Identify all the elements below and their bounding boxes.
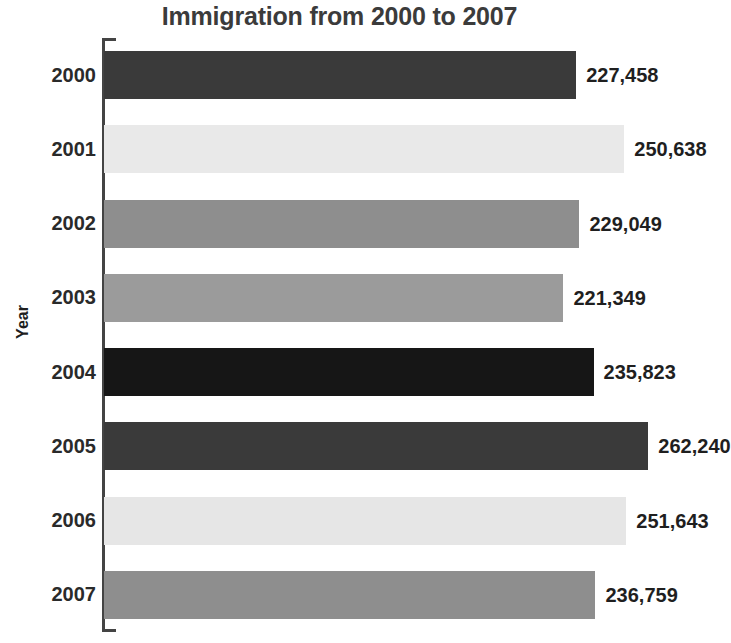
bar-row: 227,458 <box>104 51 679 99</box>
bar-value-label: 221,349 <box>573 286 645 309</box>
category-label: 2000 <box>10 64 96 87</box>
y-axis-tick-label-2005: 2005 <box>0 422 96 470</box>
bar-value-label: 235,823 <box>604 361 676 384</box>
y-axis-tick-label-2007: 2007 <box>0 571 96 619</box>
bar-2005[interactable] <box>104 422 648 470</box>
bar-value-label: 227,458 <box>586 64 658 87</box>
bar-row: 262,240 <box>104 422 679 470</box>
bar-value-label: 262,240 <box>658 435 730 458</box>
bar-2006[interactable] <box>104 497 626 545</box>
bar-row: 221,349 <box>104 274 679 322</box>
bar-row: 235,823 <box>104 348 679 396</box>
y-axis-tick-label-2000: 2000 <box>0 51 96 99</box>
category-label: 2004 <box>10 361 96 384</box>
bar-row: 229,049 <box>104 200 679 248</box>
y-axis-tick-label-2001: 2001 <box>0 125 96 173</box>
category-label: 2001 <box>10 138 96 161</box>
bar-2003[interactable] <box>104 274 563 322</box>
bar-2000[interactable] <box>104 51 576 99</box>
y-axis-tick-labels: 20002001200220032004200520062007 <box>0 38 96 632</box>
category-label: 2003 <box>10 286 96 309</box>
bar-row: 250,638 <box>104 125 679 173</box>
bar-row: 236,759 <box>104 571 679 619</box>
category-label: 2007 <box>10 583 96 606</box>
bar-value-label: 229,049 <box>589 212 661 235</box>
bar-value-label: 250,638 <box>634 138 706 161</box>
y-axis-tick-label-2002: 2002 <box>0 200 96 248</box>
chart-title: Immigration from 2000 to 2007 <box>0 2 679 31</box>
bar-2001[interactable] <box>104 125 624 173</box>
bar-2002[interactable] <box>104 200 579 248</box>
bar-value-label: 251,643 <box>636 509 708 532</box>
y-axis-tick-label-2004: 2004 <box>0 348 96 396</box>
category-label: 2006 <box>10 509 96 532</box>
bar-value-label: 236,759 <box>605 583 677 606</box>
category-label: 2002 <box>10 212 96 235</box>
bar-row: 251,643 <box>104 497 679 545</box>
bar-2007[interactable] <box>104 571 595 619</box>
category-label: 2005 <box>10 435 96 458</box>
plot-area: 227,458250,638229,049221,349235,823262,2… <box>104 38 679 632</box>
bar-2004[interactable] <box>104 348 594 396</box>
y-axis-tick-label-2003: 2003 <box>0 274 96 322</box>
y-axis-tick-label-2006: 2006 <box>0 497 96 545</box>
